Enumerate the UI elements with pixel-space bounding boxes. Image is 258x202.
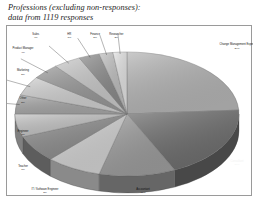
pie-slice-label-percent: 5% <box>21 73 25 76</box>
pie-slice-label-percent: 8% <box>43 191 47 194</box>
pie-slice-label-name: Engineer <box>18 129 29 133</box>
pie-slice-label-name: Change Management Expert <box>220 42 253 46</box>
chart-title-line-1: Professions (excluding non-responses): <box>8 3 248 13</box>
pie-label-leader <box>118 34 120 54</box>
pie-slice-label-name: Teacher <box>18 164 28 168</box>
pie-slice-label: Change Management Expert24% <box>220 42 253 49</box>
pie-slice-label-name: HR <box>67 32 71 36</box>
pie-label-leader <box>100 35 107 55</box>
pie-slice-label: Researcher2% <box>109 32 123 39</box>
pie-slice-label: Marketing5% <box>17 68 29 75</box>
plot-area-frame: Change Management Expert24%Consultant19%… <box>6 25 252 196</box>
pie-slice-label-percent: 2% <box>93 36 97 39</box>
pie-slice-label-name: Researcher <box>109 32 123 36</box>
pie-slice-label-name: Marketing <box>17 68 29 72</box>
pie-slice-label: Sales4% <box>32 32 39 39</box>
pie-top-layer <box>15 52 239 176</box>
pie-slice-label: Accountant11% <box>136 187 150 194</box>
pie-slice-label-percent: 4% <box>21 51 25 54</box>
pie-slice-label-percent: 3% <box>68 36 72 39</box>
pie-slice-label-percent: 7% <box>21 168 25 171</box>
pie-label-leader <box>78 38 91 57</box>
pie-label-leader <box>49 46 69 63</box>
pie-slice-label: Product Manager4% <box>13 46 34 53</box>
pie-slice-label-percent: 24% <box>234 47 240 50</box>
pie-chart-figure: Professions (excluding non-responses): d… <box>0 0 258 202</box>
pie-slice-label: IT / Software Engineer8% <box>31 187 58 194</box>
pie-slice-label-name: Accountant <box>136 187 150 191</box>
chart-title: Professions (excluding non-responses): d… <box>8 3 248 23</box>
pie-slice-label-name: Consultant <box>230 159 243 163</box>
pie-slice-label-name: Product Manager <box>13 46 34 50</box>
pie-slice-shading <box>127 52 239 114</box>
pie-slice-label: HR3% <box>67 32 72 39</box>
pie-slice-label-percent: 4% <box>34 36 38 39</box>
pie-slice-label: Consultant19% <box>230 159 243 166</box>
pie-slice-label-percent: 19% <box>234 163 240 166</box>
pie-label-leader <box>7 77 30 86</box>
pie-chart-svg: Change Management Expert24%Consultant19%… <box>7 26 253 197</box>
pie-slice-label-name: Finance <box>90 32 100 36</box>
pie-slice-label: Finance2% <box>90 32 100 39</box>
pie-slice-label: Teacher7% <box>18 164 28 171</box>
pie-slice-label-name: Other <box>20 96 27 100</box>
pie-slice-label-percent: 11% <box>141 191 147 194</box>
pie-slice-label-name: IT / Software Engineer <box>31 187 58 191</box>
pie-slice-label-name: Sales <box>32 32 39 36</box>
chart-title-line-2: data from 1119 responses <box>8 13 248 23</box>
